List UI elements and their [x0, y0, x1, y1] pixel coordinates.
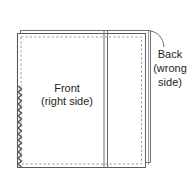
back-label: Back (wrong side)	[153, 48, 187, 88]
front-label-line2: (right side)	[41, 95, 93, 107]
front-label-line1: Front	[54, 82, 80, 94]
fabric-construction-diagram: Front (right side) Back (wrong side)	[0, 0, 190, 179]
leader-line	[151, 31, 165, 47]
diagram-canvas: Front (right side) Back (wrong side)	[0, 0, 190, 179]
back-label-line2: (wrong	[153, 62, 187, 74]
back-label-line1: Back	[158, 48, 183, 60]
back-label-line3: side)	[158, 76, 182, 88]
curved-leader-line	[151, 31, 165, 47]
